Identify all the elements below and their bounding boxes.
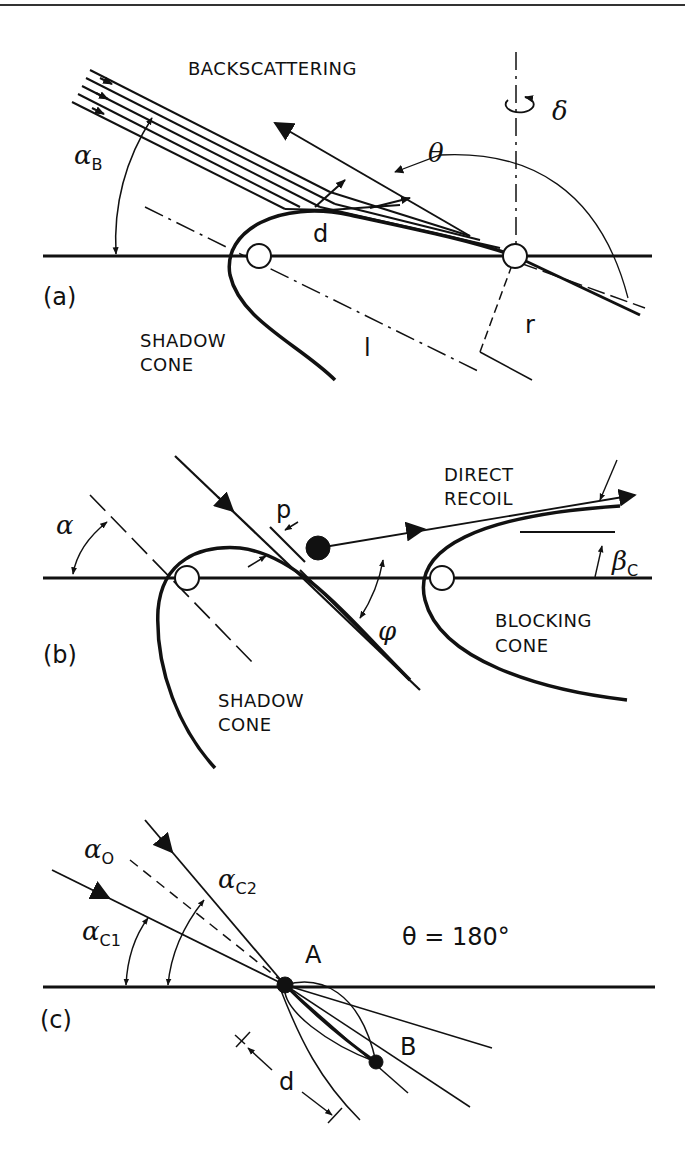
alpha-symbol: α xyxy=(218,864,236,894)
alpha-symbol: α xyxy=(82,916,100,946)
label-blocking-cone-2: CONE xyxy=(495,637,549,655)
label-shadow-cone-a-2: CONE xyxy=(140,356,194,374)
atom-open xyxy=(247,244,271,268)
label-direct-recoil-2: RECOIL xyxy=(444,490,513,508)
alpha-symbol: α xyxy=(74,140,92,170)
atom-recoiling-filled xyxy=(306,536,330,560)
label-phi: φ xyxy=(378,618,396,644)
label-shadow-cone-b-1: SHADOW xyxy=(218,692,304,710)
atom-open xyxy=(430,566,454,590)
panel-tag-a: (a) xyxy=(43,285,76,309)
label-shadow-cone-b-2: CONE xyxy=(218,716,272,734)
alpha-subscript: C2 xyxy=(236,879,257,898)
label-shadow-cone-a-1: SHADOW xyxy=(140,332,226,350)
label-r: r xyxy=(525,313,535,337)
atom-a-filled xyxy=(277,977,293,993)
label-backscattering: BACKSCATTERING xyxy=(188,60,357,78)
panel-tag-c: (c) xyxy=(40,1008,72,1032)
label-atom-a: A xyxy=(305,943,321,967)
label-direct-recoil-1: DIRECT xyxy=(444,466,514,484)
alpha-subscript: O xyxy=(102,849,115,868)
label-alpha-b: αB xyxy=(74,142,103,168)
label-d: d xyxy=(313,222,328,246)
alpha-symbol: α xyxy=(84,834,102,864)
beta-subscript: C xyxy=(627,561,638,580)
label-theta-180: θ = 180° xyxy=(402,925,510,949)
alpha-subscript: B xyxy=(92,155,103,174)
beta-symbol: β xyxy=(612,546,627,576)
scattering-geometry-figure xyxy=(0,0,685,1164)
shadow-cone-curve xyxy=(229,211,515,380)
label-alpha: α xyxy=(56,512,74,538)
panel-tag-b: (b) xyxy=(43,643,77,667)
label-atom-b: B xyxy=(400,1035,416,1059)
atom-open xyxy=(503,244,527,268)
atom-b-filled xyxy=(369,1055,383,1069)
panel-c xyxy=(43,820,655,1123)
label-alpha-c1: αC1 xyxy=(82,918,121,944)
label-delta: δ xyxy=(552,98,568,124)
atom-open xyxy=(175,566,199,590)
label-theta: θ xyxy=(428,140,444,166)
alpha-subscript: C1 xyxy=(100,931,121,950)
label-l: l xyxy=(364,336,371,360)
label-beta-c: βC xyxy=(612,548,638,574)
label-alpha-0: αO xyxy=(84,836,114,862)
label-alpha-c2: αC2 xyxy=(218,866,257,892)
delta-rotation-icon xyxy=(506,97,534,112)
label-p: p xyxy=(276,498,291,522)
label-blocking-cone-1: BLOCKING xyxy=(495,612,592,630)
blocking-cone-curve xyxy=(423,506,627,700)
label-d-spacing: d xyxy=(279,1070,294,1094)
theta-arc xyxy=(395,155,628,298)
